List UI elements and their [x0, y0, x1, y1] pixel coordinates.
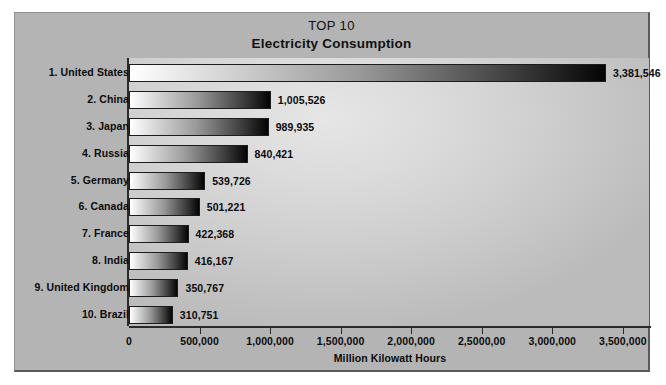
category-axis-labels: 1. United States2. China3. Japan4. Russi…: [0, 58, 129, 326]
bar-value-label: 310,751: [180, 309, 219, 321]
bar-row: 3,381,546: [129, 64, 651, 82]
bar-row: 422,368: [129, 225, 651, 243]
bar-row: 416,167: [129, 252, 651, 270]
bar-value-label: 350,767: [185, 282, 224, 294]
chart-title: TOP 10: [15, 18, 648, 34]
category-label: 10. Brazil: [0, 308, 129, 320]
bar: [129, 252, 188, 270]
plot-area: 1. United States2. China3. Japan4. Russi…: [127, 58, 649, 326]
x-axis-title: Million Kilowatt Hours: [129, 352, 651, 364]
chart-subtitle: Electricity Consumption: [15, 35, 648, 52]
x-axis-tick: [623, 328, 624, 334]
bar-row: 989,935: [129, 118, 651, 136]
x-axis-tick-label: 0: [126, 335, 132, 347]
x-axis-line: [129, 326, 651, 328]
bar: [129, 91, 271, 109]
bar: [129, 172, 205, 190]
bar-row: 310,751: [129, 306, 651, 324]
x-axis-tick-label: 500,000: [180, 335, 219, 347]
bar-row: 840,421: [129, 145, 651, 163]
category-label: 8. India: [0, 254, 129, 266]
bar: [129, 118, 269, 136]
chart-frame: TOP 10 Electricity Consumption 1. United…: [14, 12, 650, 372]
category-label: 4. Russia: [0, 147, 129, 159]
bar-row: 539,726: [129, 172, 651, 190]
x-axis-tick: [200, 328, 201, 334]
x-axis-tick: [341, 328, 342, 334]
bar-value-label: 989,935: [276, 121, 315, 133]
bar-value-label: 840,421: [255, 148, 294, 160]
bar: [129, 198, 200, 216]
category-label: 6. Canada: [0, 200, 129, 212]
category-label: 9. United Kingdom: [0, 281, 129, 293]
bar-value-label: 422,368: [196, 228, 235, 240]
bar: [129, 279, 178, 297]
x-axis-tick-label: 3,000,000: [528, 335, 576, 347]
x-axis-tick: [411, 328, 412, 334]
category-label: 7. France: [0, 227, 129, 239]
bar-row: 501,221: [129, 198, 651, 216]
bar-row: 350,767: [129, 279, 651, 297]
bar-value-label: 3,381,546: [613, 67, 661, 79]
x-axis-tick-label: 2,000,000: [387, 335, 435, 347]
x-axis-tick: [482, 328, 483, 334]
bar-value-label: 539,726: [212, 175, 251, 187]
x-axis-tick-label: 1,500,000: [317, 335, 365, 347]
bar: [129, 225, 189, 243]
bar-row: 1,005,526: [129, 91, 651, 109]
bar-value-label: 416,167: [195, 255, 234, 267]
category-label: 2. China: [0, 93, 129, 105]
x-axis-tick-label: 2,5000,00: [458, 335, 506, 347]
bar: [129, 64, 606, 82]
category-label: 5. Germany: [0, 174, 129, 186]
chart-title-block: TOP 10 Electricity Consumption: [15, 18, 648, 52]
category-label: 3. Japan: [0, 120, 129, 132]
bar: [129, 306, 173, 324]
bar-value-label: 501,221: [207, 201, 246, 213]
x-axis-tick-label: 1,000,000: [246, 335, 294, 347]
category-label: 1. United States: [0, 66, 129, 78]
x-axis-tick: [270, 328, 271, 334]
x-axis-tick: [552, 328, 553, 334]
bar-value-label: 1,005,526: [278, 94, 326, 106]
bar: [129, 145, 248, 163]
x-axis-tick-label: 3,500,000: [599, 335, 647, 347]
